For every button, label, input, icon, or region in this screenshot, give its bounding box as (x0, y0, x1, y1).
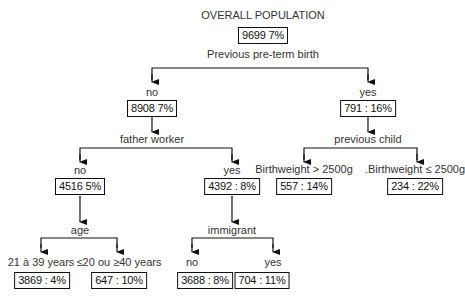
branch-label-age-21-39: 21 à 39 years (8, 256, 75, 268)
node-box-no-preterm: 8908 7% (127, 100, 177, 117)
node-box-immigrant-yes: 704 : 11% (235, 272, 290, 289)
split-label-age: age (71, 224, 89, 236)
branch-label-birthweight-gt: Birthweight > 2500g (255, 163, 353, 175)
node-box-father-no: 4516 5% (55, 178, 105, 195)
node-box-age-extreme: 647 : 10% (91, 272, 147, 289)
branch-label-immigrant-yes: yes (264, 256, 281, 268)
branch-label-yes: yes (359, 86, 376, 98)
branch-label-father-no: no (74, 164, 86, 176)
split-label-immigrant: immigrant (208, 224, 256, 236)
branch-label-birthweight-le: .Birthweight ≤ 2500g (365, 163, 465, 175)
root-node-box: 9699 7% (238, 27, 288, 44)
diagram-title: OVERALL POPULATION (201, 9, 324, 21)
branch-label-no: no (146, 86, 158, 98)
node-box-birthweight-gt: 557 : 14% (276, 178, 332, 195)
node-box-age-21-39: 3869 : 4% (14, 272, 70, 289)
node-box-father-yes: 4392 : 8% (204, 178, 260, 195)
branch-label-immigrant-no: no (186, 256, 198, 268)
node-box-immigrant-no: 3688 : 8% (177, 272, 233, 289)
node-box-birthweight-le: 234 : 22% (387, 178, 443, 195)
branch-label-age-extreme: ≤20 ou ≥40 years (77, 256, 162, 268)
split-label-father-worker: father worker (120, 133, 184, 145)
split-label-previous-child: previous child (334, 133, 401, 145)
branch-label-father-yes: yes (223, 164, 240, 176)
node-box-yes-preterm: 791 : 16% (340, 100, 396, 117)
root-split-label: Previous pre-term birth (207, 48, 319, 60)
